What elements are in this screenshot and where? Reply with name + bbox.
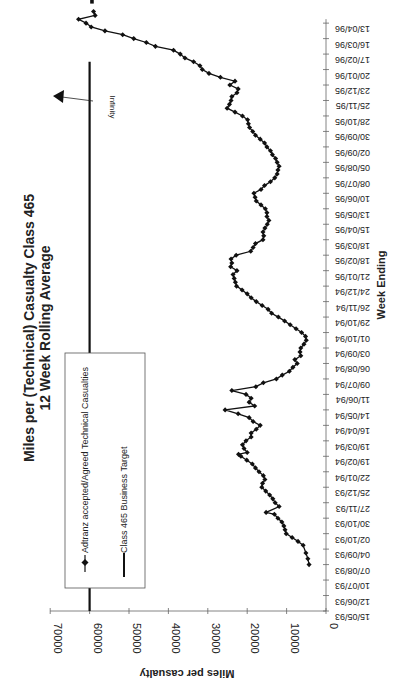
chart-title-group: Miles per (Technical) Casualty Class 465… xyxy=(21,194,53,462)
value-tick-label: 60000 xyxy=(92,623,104,654)
legend-box xyxy=(65,353,145,588)
infinity-label: Infinity xyxy=(108,95,117,118)
data-point-diamond-icon xyxy=(236,411,241,416)
data-point-diamond-icon xyxy=(264,510,269,515)
date-tick-label: 27/11/93 xyxy=(336,504,370,514)
value-axis-title: Miles per casualty xyxy=(139,668,235,680)
date-tick-label: 22/01/94 xyxy=(335,473,370,483)
date-tick-label: 17/02/96 xyxy=(335,55,370,65)
date-tick-label: 09/07/94 xyxy=(335,380,370,390)
data-point-diamond-icon xyxy=(90,0,94,4)
data-point-diamond-icon xyxy=(261,233,266,238)
data-point-diamond-icon xyxy=(232,276,237,281)
date-tick-label: 10/07/93 xyxy=(335,581,370,591)
data-point-diamond-icon xyxy=(229,260,234,265)
data-point-diamond-icon xyxy=(246,121,251,126)
date-tick-label: 05/08/95 xyxy=(335,163,370,173)
data-point-diamond-icon xyxy=(297,349,302,354)
date-tick-label: 07/08/93 xyxy=(335,566,370,576)
date-tick-label: 18/02/95 xyxy=(335,256,370,266)
data-point-diamond-icon xyxy=(233,280,238,285)
date-tick-label: 29/10/94 xyxy=(335,318,370,328)
chart-title: Miles per (Technical) Casualty Class 465 xyxy=(21,194,37,462)
data-point-diamond-icon xyxy=(229,388,234,393)
date-tick-label: 20/01/96 xyxy=(335,71,370,81)
date-tick-label: 30/09/95 xyxy=(335,132,370,142)
date-tick-label: 15/04/95 xyxy=(335,225,370,235)
date-tick-label: 06/08/94 xyxy=(335,364,370,374)
chart-subtitle: 12 Week Rolling Average xyxy=(37,245,53,410)
legend: Adtranz accepted/Agreed Technical Casual… xyxy=(65,353,145,588)
data-point-diamond-icon xyxy=(260,237,265,242)
date-tick-label: 19/03/94 xyxy=(335,442,370,452)
date-tick-label: 18/03/95 xyxy=(335,241,370,251)
date-tick-label: 02/10/93 xyxy=(335,535,370,545)
infinity-annotation: Infinity xyxy=(53,90,117,119)
date-tick-label: 21/01/95 xyxy=(335,272,370,282)
infinity-arrow-line xyxy=(62,97,93,101)
date-tick-label: 08/07/95 xyxy=(335,179,370,189)
date-tick-label: 11/06/94 xyxy=(336,395,370,405)
date-tick-label: 25/11/95 xyxy=(336,101,370,111)
date-tick-label: 30/10/93 xyxy=(335,519,370,529)
date-tick-label: 15/05/93 xyxy=(335,612,370,622)
date-tick-label: 25/12/93 xyxy=(335,488,370,498)
data-point-diamond-icon xyxy=(218,75,223,80)
data-point-diamond-icon xyxy=(305,556,310,561)
date-tick-label: 13/04/96 xyxy=(335,24,370,34)
date-axis-title: Week Ending xyxy=(375,251,387,320)
data-point-diamond-icon xyxy=(261,380,266,385)
date-tick-label: 19/02/94 xyxy=(335,457,370,467)
data-point-diamond-icon xyxy=(236,86,241,91)
chart-canvas: Miles per (Technical) Casualty Class 465… xyxy=(0,0,402,698)
data-point-diamond-icon xyxy=(251,191,256,196)
value-tick-label: 20000 xyxy=(249,623,261,654)
data-point-diamond-icon xyxy=(253,384,258,389)
date-tick-label: 23/12/95 xyxy=(335,86,370,96)
data-point-diamond-icon xyxy=(102,28,107,33)
data-point-diamond-icon xyxy=(232,110,237,115)
date-tick-label: 26/11/94 xyxy=(336,303,370,313)
date-tick-label: 16/03/96 xyxy=(335,40,370,50)
legend-item-target: Class 465 Business Target xyxy=(119,446,129,553)
legend-item-series: Adtranz accepted/Agreed Technical Casual… xyxy=(80,367,90,553)
date-tick-label: 02/09/95 xyxy=(335,148,370,158)
date-tick-label: 10/06/95 xyxy=(335,194,370,204)
value-tick-label: 0 xyxy=(328,623,340,629)
data-point-diamond-icon xyxy=(153,44,158,49)
value-tick-label: 40000 xyxy=(170,623,182,654)
data-point-diamond-icon xyxy=(76,17,81,22)
date-tick-label: 28/10/95 xyxy=(335,117,370,127)
value-tick-label: 70000 xyxy=(52,623,64,654)
date-tick-label: 24/12/94 xyxy=(335,287,370,297)
date-tick-label: 16/04/94 xyxy=(335,426,370,436)
infinity-arrow-icon xyxy=(53,90,64,103)
data-point-diamond-icon xyxy=(303,550,308,555)
value-tick-label: 10000 xyxy=(289,623,301,654)
data-point-diamond-icon xyxy=(307,562,312,567)
date-tick-label: 14/05/94 xyxy=(335,411,370,421)
data-point-diamond-icon xyxy=(144,40,149,45)
date-tick-label: 12/06/93 xyxy=(335,597,370,607)
data-point-diamond-icon xyxy=(253,195,258,200)
value-tick-label: 30000 xyxy=(210,623,222,654)
date-axis: 15/05/9312/06/9310/07/9307/08/9304/09/93… xyxy=(323,19,370,622)
date-tick-label: 04/09/93 xyxy=(335,550,370,560)
date-tick-label: 13/05/95 xyxy=(335,210,370,220)
value-axis: 010000200003000040000500006000070000 xyxy=(50,608,340,654)
value-tick-label: 50000 xyxy=(131,623,143,654)
data-point-diamond-icon xyxy=(131,36,136,41)
data-point-diamond-icon xyxy=(282,527,287,532)
data-point-diamond-icon xyxy=(120,32,125,37)
date-tick-label: 01/10/94 xyxy=(335,334,370,344)
date-tick-label: 03/09/94 xyxy=(335,349,370,359)
data-point-diamond-icon xyxy=(223,407,228,412)
data-point-diamond-icon xyxy=(275,168,280,173)
